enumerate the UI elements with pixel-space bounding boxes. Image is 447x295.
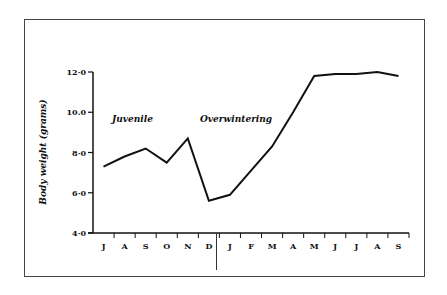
x-tick-label: O xyxy=(163,241,170,251)
line-chart: 4·06·08·010.012·0 JASONDJFMAMJJAS Body w… xyxy=(0,0,447,295)
y-tick-label: 6·0 xyxy=(72,188,86,198)
x-tick-label: F xyxy=(248,241,254,251)
x-tick-label: A xyxy=(289,241,297,251)
x-tick-label: M xyxy=(310,241,319,251)
y-tick-label: 8·0 xyxy=(72,148,86,158)
x-tick-label: J xyxy=(101,241,106,251)
x-tick-label: A xyxy=(120,241,128,251)
y-tick-label: 4·0 xyxy=(72,228,86,238)
x-tick-label: J xyxy=(332,241,337,251)
x-tick-label: D xyxy=(205,241,212,251)
y-ticks: 4·06·08·010.012·0 xyxy=(67,67,93,238)
annotation-overwintering: Overwintering xyxy=(200,114,272,124)
annotation-juvenile: Juvenile xyxy=(110,114,153,124)
x-tick-label: M xyxy=(268,241,277,251)
x-tick-label: N xyxy=(184,241,191,251)
x-tick-label: A xyxy=(373,241,381,251)
y-tick-label: 12·0 xyxy=(67,67,87,77)
x-ticks: JASONDJFMAMJJAS xyxy=(101,233,409,251)
x-tick-label: J xyxy=(227,241,232,251)
x-tick-label: S xyxy=(143,241,149,251)
x-tick-label: J xyxy=(353,241,358,251)
y-axis-label: Body weight (grams) xyxy=(38,99,48,205)
body-weight-line xyxy=(104,72,399,201)
y-tick-label: 10.0 xyxy=(67,107,87,117)
x-tick-label: S xyxy=(396,241,402,251)
